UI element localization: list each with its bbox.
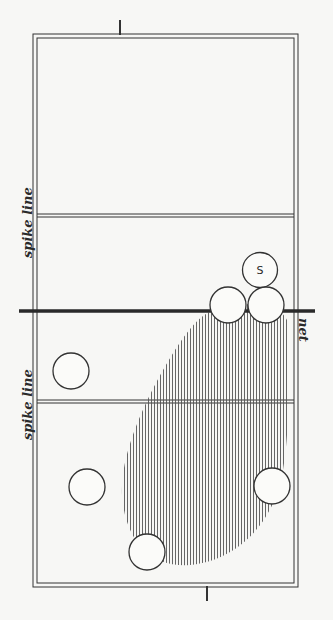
- spike-line-bottom-label: spike line: [20, 369, 35, 440]
- coverage-zone: [122, 304, 289, 565]
- server-label: S: [257, 264, 264, 277]
- player-circle: [248, 287, 284, 323]
- spike-line-top-label: spike line: [20, 187, 35, 258]
- net-label: net: [296, 318, 311, 342]
- player-circle: [69, 469, 105, 505]
- player-circle: [53, 353, 89, 389]
- player-circle: [129, 534, 165, 570]
- player-server: S: [243, 253, 278, 288]
- player-circle: [210, 287, 246, 323]
- spike-line-top: [37, 214, 294, 217]
- volleyball-court-diagram: spike line spike line net S: [0, 0, 333, 620]
- player-circle: [254, 468, 290, 504]
